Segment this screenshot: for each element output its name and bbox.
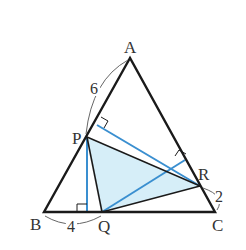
point-label-b: B <box>30 215 41 234</box>
length-label-ap: 6 <box>90 80 98 97</box>
point-label-c: C <box>212 216 223 235</box>
point-label-a: A <box>124 38 137 57</box>
length-label-bq: 4 <box>67 218 75 235</box>
point-label-r: R <box>198 165 210 184</box>
right-angle-mark-ab <box>101 117 108 128</box>
point-label-q: Q <box>98 217 110 236</box>
length-label-rc: 2 <box>215 188 223 205</box>
point-label-p: P <box>72 129 81 148</box>
geometry-diagram: 6 4 2 A B C P Q R <box>0 0 246 250</box>
